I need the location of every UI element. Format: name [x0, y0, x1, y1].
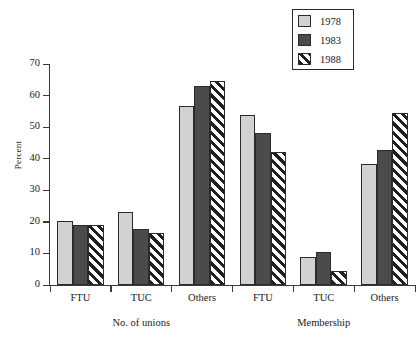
x-tick-mark	[354, 285, 355, 292]
x-tick-mark	[171, 285, 172, 292]
bar-1983-TUC	[316, 252, 332, 285]
y-tick-mark	[43, 253, 50, 254]
x-tick-mark	[110, 285, 111, 292]
x-category-label: TUC	[293, 292, 354, 303]
bar-1983-Others	[377, 150, 393, 285]
y-tick-mark	[43, 221, 50, 222]
bar-group	[293, 64, 354, 285]
x-tick-mark	[293, 285, 294, 292]
legend-swatch-1983-icon	[298, 34, 311, 46]
y-tick-mark	[43, 95, 50, 96]
bar-1988-TUC	[331, 271, 347, 285]
y-tick-label: 0	[0, 279, 40, 289]
y-tick-label: 50	[0, 121, 40, 131]
bar-1988-Others	[392, 113, 408, 285]
legend-label-1988: 1988	[320, 54, 341, 65]
bar-1978-FTU	[240, 115, 256, 285]
legend-item-1978: 1978	[298, 14, 341, 28]
y-tick-label: 70	[0, 58, 40, 68]
x-category-label: Others	[354, 292, 415, 303]
bar-chart: Percent 010203040506070 FTUTUCOthersFTUT…	[0, 0, 420, 339]
x-category-label: FTU	[50, 292, 111, 303]
bar-group	[111, 64, 172, 285]
legend-swatch-1978-icon	[298, 15, 311, 27]
y-tick-label: 20	[0, 216, 40, 226]
bar-group	[354, 64, 415, 285]
bar-1988-FTU	[88, 225, 104, 285]
bar-group	[172, 64, 233, 285]
legend-swatch-1988-icon	[298, 53, 311, 65]
y-tick-mark	[43, 190, 50, 191]
legend-label-1978: 1978	[320, 16, 341, 27]
x-group-label: No. of unions	[50, 317, 233, 328]
x-group-label: Membership	[233, 317, 416, 328]
bar-1978-Others	[179, 106, 195, 285]
y-tick-label: 30	[0, 184, 40, 194]
bar-1988-TUC	[149, 233, 165, 285]
x-category-label: TUC	[111, 292, 172, 303]
x-tick-mark	[232, 285, 233, 292]
legend: 1978 1983 1988	[292, 9, 354, 70]
x-tick-mark	[415, 285, 416, 292]
y-tick-label: 60	[0, 90, 40, 100]
x-tick-mark	[50, 285, 51, 292]
bar-1983-Others	[194, 86, 210, 285]
bar-1983-FTU	[255, 133, 271, 285]
y-tick-mark	[43, 64, 50, 65]
bar-1983-TUC	[133, 229, 149, 286]
bar-1988-FTU	[271, 152, 287, 285]
legend-item-1988: 1988	[298, 52, 341, 66]
y-tick-label: 10	[0, 247, 40, 257]
y-tick-mark	[43, 127, 50, 128]
bar-1978-Others	[361, 164, 377, 285]
bar-1978-TUC	[118, 212, 134, 285]
plot-area	[50, 64, 415, 285]
y-tick-mark	[43, 158, 50, 159]
bar-group	[50, 64, 111, 285]
legend-item-1983: 1983	[298, 33, 341, 47]
x-category-label: FTU	[233, 292, 294, 303]
y-tick-label: 40	[0, 153, 40, 163]
x-category-label: Others	[172, 292, 233, 303]
bar-1978-FTU	[57, 221, 73, 285]
legend-label-1983: 1983	[320, 35, 341, 46]
bar-1983-FTU	[73, 225, 89, 285]
bar-group	[233, 64, 294, 285]
bar-1978-TUC	[300, 257, 316, 285]
bar-1988-Others	[210, 81, 226, 285]
